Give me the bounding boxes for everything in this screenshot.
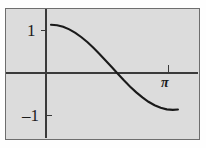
figure-container: 1 –1 π [0, 0, 206, 148]
plot-frame: 1 –1 π [5, 8, 200, 140]
curve-svg [6, 9, 198, 138]
cosine-curve [51, 25, 178, 110]
